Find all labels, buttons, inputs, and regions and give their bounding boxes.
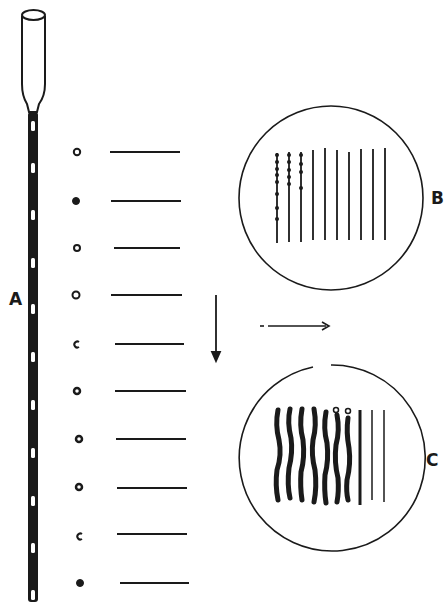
view-c	[239, 365, 425, 551]
tube-a	[22, 10, 45, 602]
row-6	[74, 388, 186, 394]
row-4	[73, 292, 183, 299]
row-9	[77, 534, 187, 540]
row-1	[74, 149, 180, 155]
row-8	[76, 484, 187, 490]
figure: A B C	[0, 0, 445, 605]
row-10	[77, 580, 190, 587]
diagram-canvas	[0, 0, 445, 605]
row-5	[74, 342, 184, 348]
view-b	[239, 106, 423, 290]
row-2	[73, 198, 182, 205]
down-arrow	[212, 295, 220, 361]
label-a: A	[9, 291, 22, 308]
right-arrow	[260, 322, 329, 330]
label-c: C	[426, 452, 438, 469]
label-b: B	[431, 190, 444, 207]
row-3	[74, 245, 180, 251]
sample-rows	[73, 149, 190, 587]
row-7	[76, 436, 186, 442]
